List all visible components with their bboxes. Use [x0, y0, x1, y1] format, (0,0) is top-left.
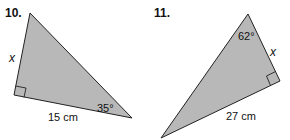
side-label-x: x	[269, 45, 277, 59]
problem-10: 10. x 15 cm 35°	[5, 6, 132, 123]
angle-label: 35°	[97, 102, 114, 114]
side-label-x: x	[8, 51, 16, 65]
angle-label: 62°	[238, 30, 255, 42]
right-triangle	[161, 14, 280, 138]
problem-number: 10.	[5, 6, 22, 20]
base-length-label: 15 cm	[48, 111, 78, 123]
right-triangle	[14, 13, 132, 118]
problem-11: 11. x 27 cm 62°	[154, 6, 280, 138]
figure-canvas: 10. x 15 cm 35° 11. x 27 cm 62°	[0, 0, 290, 140]
hypotenuse-length-label: 27 cm	[226, 110, 256, 122]
problem-number: 11.	[154, 6, 170, 20]
